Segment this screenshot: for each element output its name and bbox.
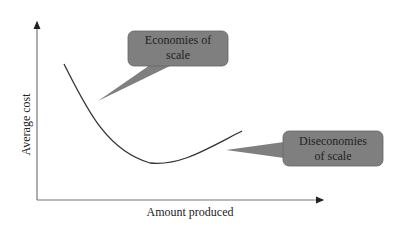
callout-line: scale	[128, 48, 228, 63]
callout-line: Economies of	[128, 33, 228, 48]
callout-line: Diseconomies	[283, 134, 383, 149]
average-cost-curve	[64, 64, 242, 163]
diseconomies-of-scale-text: Diseconomies of scale	[283, 134, 383, 164]
x-axis-label: Amount produced	[120, 205, 260, 220]
y-axis-label: Average cost	[19, 85, 34, 165]
callout-line: of scale	[283, 149, 383, 164]
economies-of-scale-text: Economies of scale	[128, 33, 228, 63]
